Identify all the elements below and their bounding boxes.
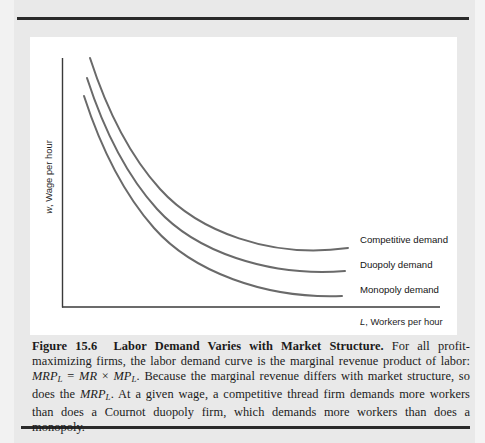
chart-panel: Competitive demand Duopoly demand Monopo…: [30, 37, 457, 335]
label-monopoly-demand: Monopoly demand: [360, 284, 439, 295]
curve-duopoly-demand: [87, 78, 345, 272]
y-axis-label: w, Wage per hour: [43, 140, 54, 214]
labor-demand-chart: Competitive demand Duopoly demand Monopo…: [30, 37, 457, 335]
caption-mr: MR: [79, 369, 97, 383]
page-gutter-right: [475, 0, 485, 443]
rule-top: [17, 17, 469, 20]
label-duopoly-demand: Duopoly demand: [360, 259, 433, 270]
caption-mp: MP: [113, 369, 131, 383]
curve-monopoly-demand: [84, 96, 342, 296]
label-competitive-demand: Competitive demand: [360, 234, 448, 245]
caption-mrp-1: MRP: [32, 369, 58, 383]
caption-text-2: =: [63, 369, 79, 383]
figure-caption: Figure 15.6 Labor Demand Varies with Mar…: [32, 339, 470, 436]
caption-mrp-2: MRP: [80, 387, 106, 401]
figure-title: Labor Demand Varies with Market Structur…: [113, 339, 383, 353]
x-axis-label-text: , Workers per hour: [365, 316, 442, 327]
figure-number: Figure 15.6: [32, 339, 97, 353]
y-axis-label-text: , Wage per hour: [43, 140, 54, 207]
x-axis-label: L, Workers per hour: [360, 316, 443, 327]
page-gutter-left: [0, 0, 14, 443]
caption-times: ×: [97, 369, 113, 383]
figure-page: Competitive demand Duopoly demand Monopo…: [0, 0, 485, 443]
curve-competitive-demand: [90, 58, 348, 250]
